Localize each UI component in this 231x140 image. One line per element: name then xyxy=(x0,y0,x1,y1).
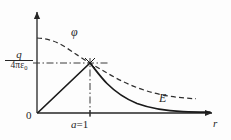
y-axis-value-label: q 4πε0 xyxy=(4,49,34,71)
fraction-denominator: 4πε0 xyxy=(4,61,34,71)
fraction-numerator: q xyxy=(4,49,34,60)
e-curve xyxy=(38,63,90,113)
x-axis-label: r xyxy=(213,118,217,129)
tick-a-value: 1 xyxy=(83,118,89,130)
denominator-epsilon-subscript: 0 xyxy=(24,64,27,71)
plot-canvas xyxy=(0,0,231,140)
phi-curve-label: φ xyxy=(71,26,78,38)
physics-field-potential-figure: q 4πε0 φ E r 0 a=1 xyxy=(0,0,231,140)
origin-label: 0 xyxy=(26,110,32,121)
e-curve-decay xyxy=(90,63,210,112)
x-axis-tick-label-a: a=1 xyxy=(71,119,88,130)
e-curve-label: E xyxy=(159,92,166,104)
